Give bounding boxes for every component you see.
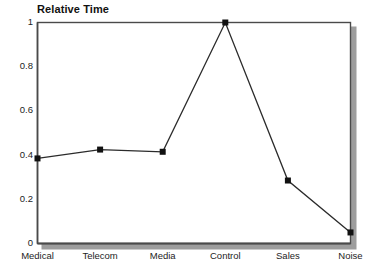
data-point-marker bbox=[35, 155, 41, 161]
x-axis-tick-label: Control bbox=[210, 250, 241, 261]
plot-canvas bbox=[0, 0, 381, 276]
y-axis-labels: 10.80.60.40.20 bbox=[0, 0, 33, 276]
y-axis-tick-label: 1 bbox=[5, 16, 33, 27]
y-axis-tick-label: 0.2 bbox=[5, 193, 33, 204]
relative-time-chart: Relative Time 10.80.60.40.20 MedicalTele… bbox=[0, 0, 381, 276]
x-axis-tick-label: Medical bbox=[21, 250, 54, 261]
plot-shadow bbox=[38, 23, 357, 250]
data-point-marker bbox=[348, 229, 354, 235]
x-axis-labels: MedicalTelecomMediaControlSalesNoise bbox=[0, 250, 381, 270]
data-point-marker bbox=[97, 147, 103, 153]
data-point-marker bbox=[160, 149, 166, 155]
data-point-marker bbox=[285, 178, 291, 184]
y-axis-tick-label: 0.8 bbox=[5, 60, 33, 71]
x-axis-tick-label: Sales bbox=[276, 250, 300, 261]
y-axis-tick-label: 0.4 bbox=[5, 149, 33, 160]
x-axis-tick-label: Telecom bbox=[82, 250, 117, 261]
x-axis-tick-label: Noise bbox=[338, 250, 362, 261]
x-axis-tick-label: Media bbox=[150, 250, 176, 261]
frame-shadow-mask bbox=[38, 23, 351, 244]
y-axis-tick-label: 0.6 bbox=[5, 104, 33, 115]
data-point-marker bbox=[222, 20, 228, 26]
y-axis-tick-label: 0 bbox=[5, 237, 33, 248]
